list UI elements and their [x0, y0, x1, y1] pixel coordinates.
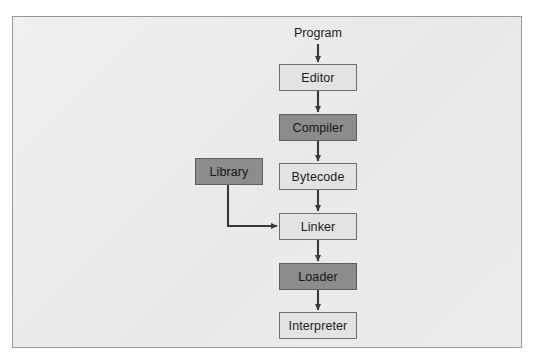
caption-program: Program: [294, 26, 342, 40]
node-linker[interactable]: Linker: [279, 213, 357, 240]
frame-background-tint: [13, 17, 521, 347]
node-bytecode-label: Bytecode: [292, 170, 345, 184]
node-linker-label: Linker: [301, 220, 336, 234]
node-compiler[interactable]: Compiler: [279, 114, 357, 141]
node-loader-label: Loader: [298, 270, 338, 284]
node-library-label: Library: [210, 165, 249, 179]
diagram-root: Program Editor Compiler Library Bytecode…: [0, 0, 535, 360]
node-bytecode[interactable]: Bytecode: [279, 163, 357, 190]
node-interpreter-label: Interpreter: [289, 319, 348, 333]
node-compiler-label: Compiler: [293, 121, 344, 135]
diagram-frame: [12, 16, 522, 348]
node-editor[interactable]: Editor: [279, 64, 357, 91]
node-loader[interactable]: Loader: [279, 263, 357, 290]
node-interpreter[interactable]: Interpreter: [279, 312, 357, 339]
node-library[interactable]: Library: [195, 158, 263, 185]
node-editor-label: Editor: [301, 71, 334, 85]
